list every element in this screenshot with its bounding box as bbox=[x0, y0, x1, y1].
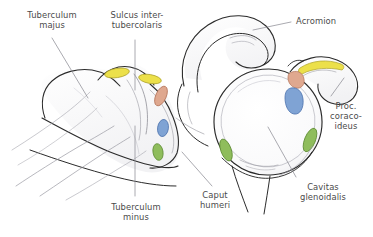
label-acromion: Acromion bbox=[296, 16, 366, 26]
label-sulcus-intertubercolaris: Sulcus inter- tubercolaris bbox=[93, 10, 181, 30]
scapula-body-edge bbox=[178, 84, 209, 146]
glenoid-cavity-fill bbox=[209, 64, 327, 181]
leader-caput-humeri bbox=[182, 152, 212, 186]
label-proc-coracoideus: Proc. coraco- ideus bbox=[322, 101, 370, 132]
label-caput-humeri: Caput humeri bbox=[186, 190, 244, 210]
scapula-body-edge-inner bbox=[188, 92, 192, 124]
scapula-spine-hint bbox=[176, 118, 204, 134]
label-tuberculum-majus: Tuberculum majus bbox=[8, 10, 96, 30]
label-cavitas-glenoidalis: Cavitas glenoidalis bbox=[285, 182, 361, 202]
illustration-canvas: Tuberculum majus Sulcus inter- tubercola… bbox=[0, 0, 373, 237]
glenoid-neck-right bbox=[264, 176, 270, 214]
label-tuberculum-minus: Tuberculum minus bbox=[93, 202, 179, 222]
humerus-group bbox=[12, 63, 179, 200]
